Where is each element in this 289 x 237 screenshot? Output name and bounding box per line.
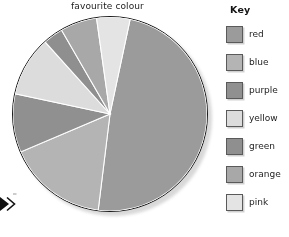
legend-label: purple [249, 86, 278, 95]
legend-item-blue[interactable]: blue [226, 48, 289, 76]
legend-swatch-green [226, 138, 243, 155]
legend-label: yellow [249, 114, 278, 123]
legend-label: green [249, 142, 275, 151]
legend-item-orange[interactable]: orange [226, 160, 289, 188]
legend: Key redbluepurpleyellowgreenorangepink [226, 4, 289, 216]
legend-swatch-yellow [226, 110, 243, 127]
legend-swatch-blue [226, 54, 243, 71]
legend-item-green[interactable]: green [226, 132, 289, 160]
legend-title: Key [230, 4, 289, 15]
legend-list: redbluepurpleyellowgreenorangepink [226, 20, 289, 216]
legend-swatch-pink [226, 194, 243, 211]
pie-slices-svg [13, 17, 207, 211]
legend-swatch-red [226, 26, 243, 43]
legend-swatch-purple [226, 82, 243, 99]
legend-label: orange [249, 170, 281, 179]
legend-item-pink[interactable]: pink [226, 188, 289, 216]
legend-swatch-orange [226, 166, 243, 183]
pie-circle [12, 16, 208, 212]
pie-chart-page: favourite colour Key redbluepurpleyellow… [0, 0, 289, 237]
legend-label: blue [249, 58, 268, 67]
legend-label: pink [249, 198, 268, 207]
legend-item-purple[interactable]: purple [226, 76, 289, 104]
legend-item-yellow[interactable]: yellow [226, 104, 289, 132]
double-chevron-right-icon [0, 193, 17, 215]
legend-item-red[interactable]: red [226, 20, 289, 48]
legend-label: red [249, 30, 264, 39]
pie-chart [10, 14, 210, 231]
page-title: favourite colour [0, 1, 215, 11]
